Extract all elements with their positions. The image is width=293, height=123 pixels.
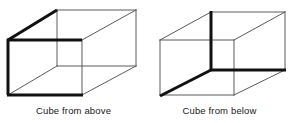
edge-connect-bottom-right — [82, 66, 136, 95]
necker-cube-figure: Cube from above Cube from below — [0, 0, 293, 123]
caption-cube-from-above: Cube from above — [0, 105, 147, 116]
bold-edge-bottom-diagonal — [160, 70, 211, 96]
edge-connect-top-right — [82, 10, 136, 40]
edge-connect-top-right — [234, 12, 285, 40]
cube-from-above-group — [7, 10, 136, 95]
caption-cube-from-below: Cube from below — [146, 105, 293, 116]
cube-above-thin-edges — [8, 10, 136, 95]
edge-connect-bottom-right — [234, 70, 285, 95]
cube-below-thin-edges — [160, 12, 285, 95]
edge-connect-top-left — [160, 12, 211, 40]
cube-below-bold-edges — [160, 11, 286, 96]
bold-edge-top-diagonal — [8, 10, 57, 40]
edge-connect-bottom-left — [8, 66, 57, 95]
cube-above-bold-edges — [7, 10, 83, 95]
cube-from-below-group — [160, 11, 286, 96]
